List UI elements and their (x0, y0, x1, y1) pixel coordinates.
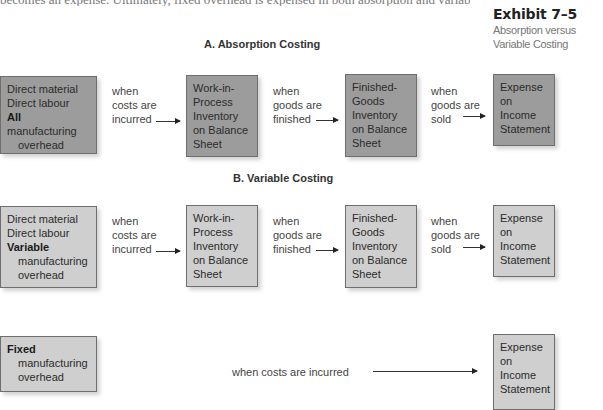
section-title-variable: B. Variable Costing (233, 172, 333, 184)
box-line: Direct material (7, 82, 90, 96)
variable-arrow1-label: when costs are incurred (112, 214, 157, 256)
box-line: manufacturing (7, 356, 90, 370)
absorption-arrow1-label: when costs are incurred (112, 84, 157, 126)
absorption-finished-goods-box: Finished- Goods Inventory on Balance She… (345, 74, 417, 157)
variable-source-costs-box: Direct material Direct labour Variable m… (0, 206, 97, 288)
section-title-absorption: A. Absorption Costing (204, 38, 320, 50)
absorption-wip-inventory-box: Work-in- Process Inventory on Balance Sh… (186, 75, 258, 157)
variable-finished-goods-box: Finished- Goods Inventory on Balance She… (345, 205, 417, 288)
exhibit-number: Exhibit 7–5 (493, 6, 603, 22)
exhibit-caption: Absorption versus Variable Costing (493, 23, 603, 51)
arrow-right-icon (156, 121, 180, 122)
box-bold-text: Fixed (7, 342, 90, 356)
arrow-right-icon (316, 250, 338, 251)
absorption-arrow2-label: when goods are finished (273, 84, 322, 126)
arrow-right-icon (156, 251, 180, 252)
variable-arrow3-label: when goods are sold (431, 214, 480, 256)
box-line: Direct labour (7, 226, 90, 240)
arrow-right-icon (463, 116, 485, 117)
variable-expense-box: Expense on Income Statement (493, 205, 555, 277)
arrow-right-icon (463, 247, 485, 248)
box-line: Direct labour (7, 96, 90, 110)
absorption-source-costs-box: Direct material Direct labour All manufa… (0, 76, 97, 154)
box-line: overhead (7, 370, 90, 384)
fixed-overhead-box: Fixed manufacturing overhead (0, 336, 97, 392)
box-line: manufacturing (7, 254, 90, 268)
absorption-arrow3-label: when goods are sold (431, 84, 480, 126)
absorption-expense-box: Expense on Income Statement (493, 74, 555, 146)
box-line: manufacturing (7, 125, 77, 137)
fixed-expense-box: Expense on Income Statement (493, 334, 555, 410)
arrow-right-icon (373, 371, 477, 372)
box-line: overhead (7, 138, 90, 152)
fixed-arrow-label: when costs are incurred (232, 365, 349, 379)
box-line: overhead (7, 268, 90, 282)
box-bold-text: Variable (7, 240, 90, 254)
box-line: Direct material (7, 212, 90, 226)
exhibit-label: Exhibit 7–5 Absorption versus Variable C… (493, 6, 603, 51)
arrow-right-icon (316, 120, 338, 121)
variable-wip-inventory-box: Work-in- Process Inventory on Balance Sh… (186, 205, 258, 287)
box-bold-text: All (7, 111, 21, 123)
body-text-fragment: becomes an expense. Ultimately, fixed ov… (0, 0, 470, 6)
variable-arrow2-label: when goods are finished (273, 214, 322, 256)
